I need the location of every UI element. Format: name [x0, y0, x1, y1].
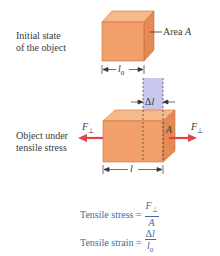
initial-cube [102, 11, 154, 61]
force-right-label: F⊥ [191, 121, 203, 137]
under-stress-line1: Object under [16, 130, 68, 142]
stretched-block [103, 110, 175, 162]
initial-state-line1: Initial state [16, 30, 66, 42]
initial-state-line2: of the object [16, 42, 66, 54]
strain-fraction: Δl l0 [145, 228, 156, 256]
initial-state-label: Initial state of the object [16, 30, 66, 54]
area-label: Area A [163, 26, 191, 38]
force-left-label: F⊥ [82, 121, 94, 137]
strain-eq-label: Tensile strain = [80, 237, 142, 248]
under-stress-label: Object under tensile stress [16, 130, 68, 154]
l0-label: l0 [118, 63, 124, 79]
under-stress-line2: tensile stress [16, 142, 68, 154]
strain-equation: Tensile strain = Δl l0 [80, 228, 156, 256]
stress-denominator: A [145, 217, 159, 228]
stress-numerator: F⊥ [145, 200, 159, 217]
delta-l-label: Δl [145, 96, 154, 108]
strain-numerator: Δl [145, 228, 156, 240]
strain-denominator: l0 [145, 240, 156, 256]
stress-fraction: F⊥ A [145, 200, 159, 228]
stress-eq-label: Tensile stress = [80, 209, 142, 220]
l-dimension [103, 165, 163, 174]
face-a-label: A [166, 124, 172, 136]
stress-equation: Tensile stress = F⊥ A [80, 200, 159, 228]
length-l-label: l [130, 163, 133, 175]
